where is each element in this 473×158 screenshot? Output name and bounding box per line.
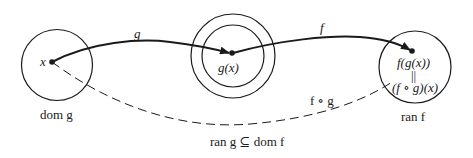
ran-g-circle (202, 25, 264, 87)
label-dom-g: dom g (40, 107, 73, 122)
dom-g-circle (22, 30, 93, 101)
label-arrow-g: g (134, 26, 141, 41)
label-x: x (39, 54, 46, 69)
dom-f-circle (191, 14, 275, 98)
label-ran-g-sub-dom-f: ran g ⊆ dom f (210, 134, 285, 149)
label-composite: f ∘ g (310, 93, 334, 108)
point-fgx (409, 48, 415, 54)
point-x (49, 59, 55, 65)
point-gx (229, 50, 235, 56)
label-arrow-f: f (320, 20, 326, 35)
composition-diagram: x g f g(x) f(g(x)) || (f ∘ g)(x) f ∘ g d… (0, 0, 473, 158)
label-fog-x: (f ∘ g)(x) (392, 80, 438, 95)
label-ran-f: ran f (401, 109, 426, 124)
label-gx: g(x) (218, 60, 239, 75)
